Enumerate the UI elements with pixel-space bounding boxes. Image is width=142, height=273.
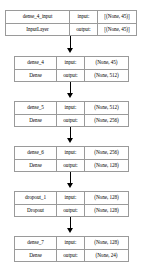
node-layer-name: dense_5 [15, 102, 57, 114]
node-dense_5[interactable]: dense_5 input: (None, 512) Dense output:… [14, 101, 129, 127]
node-output-row: Dense output: (None, 24) [15, 250, 128, 262]
node-output-row: Dense output: (None, 512) [15, 70, 128, 82]
node-layer-type: Dense [15, 250, 57, 262]
node-input-row: dense_5 input: (None, 512) [15, 102, 128, 115]
node-layer-name: dense_7 [15, 237, 57, 249]
node-input-label: input: [57, 57, 85, 69]
node-output-shape: (None, 256) [85, 115, 128, 127]
node-input-shape: (None, 128) [85, 237, 128, 249]
node-input-row: dense_4 input: (None, 45) [15, 57, 128, 70]
node-input-label: input: [57, 192, 85, 204]
node-input-label: input: [57, 147, 85, 159]
node-output-row: Dense output: (None, 128) [15, 160, 128, 172]
node-layer-type: InputLayer [6, 24, 70, 36]
node-dropout_1[interactable]: dropout_1 input: (None, 128) Dropout out… [14, 191, 129, 217]
node-input-shape: (None, 256) [85, 147, 128, 159]
node-input-shape: [(None, 45)] [98, 11, 136, 23]
node-dense_7[interactable]: dense_7 input: (None, 128) Dense output:… [14, 236, 129, 262]
node-output-row: InputLayer output: [(None, 45)] [6, 24, 136, 36]
node-dense_4_input[interactable]: dense_4_input input: [(None, 45)] InputL… [5, 10, 137, 36]
node-input-shape: (None, 45) [85, 57, 128, 69]
node-output-shape: [(None, 45)] [98, 24, 136, 36]
node-output-label: output: [57, 70, 85, 82]
node-input-label: input: [70, 11, 98, 23]
node-layer-name: dense_4_input [6, 11, 70, 23]
node-input-row: dropout_1 input: (None, 128) [15, 192, 128, 205]
node-layer-name: dense_6 [15, 147, 57, 159]
node-output-label: output: [57, 205, 85, 217]
arrowhead-icon [67, 48, 73, 53]
node-output-label: output: [57, 250, 85, 262]
node-layer-type: Dense [15, 160, 57, 172]
node-input-shape: (None, 512) [85, 102, 128, 114]
node-input-label: input: [57, 237, 85, 249]
node-output-label: output: [57, 115, 85, 127]
node-output-label: output: [70, 24, 98, 36]
node-layer-type: Dropout [15, 205, 57, 217]
model-architecture-diagram: dense_4_input input: [(None, 45)] InputL… [0, 0, 142, 273]
node-layer-name: dropout_1 [15, 192, 57, 204]
node-output-row: Dense output: (None, 256) [15, 115, 128, 127]
node-layer-name: dense_4 [15, 57, 57, 69]
node-input-label: input: [57, 102, 85, 114]
node-dense_4[interactable]: dense_4 input: (None, 45) Dense output: … [14, 56, 129, 82]
node-input-row: dense_7 input: (None, 128) [15, 237, 128, 250]
node-layer-type: Dense [15, 70, 57, 82]
node-layer-type: Dense [15, 115, 57, 127]
node-input-row: dense_6 input: (None, 256) [15, 147, 128, 160]
node-output-shape: (None, 128) [85, 160, 128, 172]
node-output-row: Dropout output: (None, 128) [15, 205, 128, 217]
node-output-label: output: [57, 160, 85, 172]
arrowhead-icon [67, 93, 73, 98]
node-dense_6[interactable]: dense_6 input: (None, 256) Dense output:… [14, 146, 129, 172]
arrowhead-icon [67, 138, 73, 143]
node-output-shape: (None, 512) [85, 70, 128, 82]
node-output-shape: (None, 24) [85, 250, 128, 262]
node-output-shape: (None, 128) [85, 205, 128, 217]
node-input-row: dense_4_input input: [(None, 45)] [6, 11, 136, 24]
node-input-shape: (None, 128) [85, 192, 128, 204]
arrowhead-icon [67, 183, 73, 188]
arrowhead-icon [67, 228, 73, 233]
